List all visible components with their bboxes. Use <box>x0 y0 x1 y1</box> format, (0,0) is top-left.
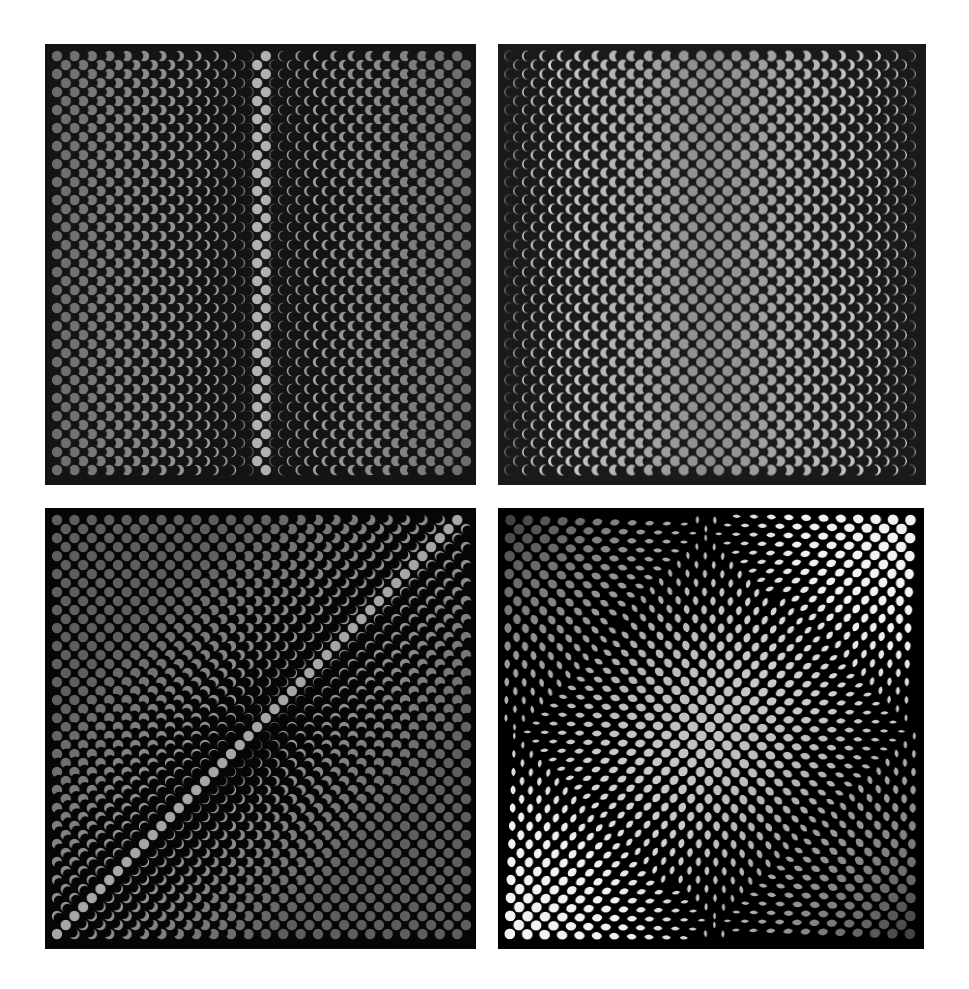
panel-top-right-edges-bright <box>498 44 926 485</box>
dot-grid-canvas <box>498 44 926 485</box>
panel-bottom-left-diagonal-band <box>45 508 476 949</box>
dot-grid-canvas <box>45 508 476 949</box>
dot-grid-canvas <box>498 508 924 949</box>
dot-grid-canvas <box>45 44 476 485</box>
panel-top-left-center-bright <box>45 44 476 485</box>
panel-bottom-right-rotated-moire <box>498 508 924 949</box>
moire-figure <box>0 0 969 989</box>
